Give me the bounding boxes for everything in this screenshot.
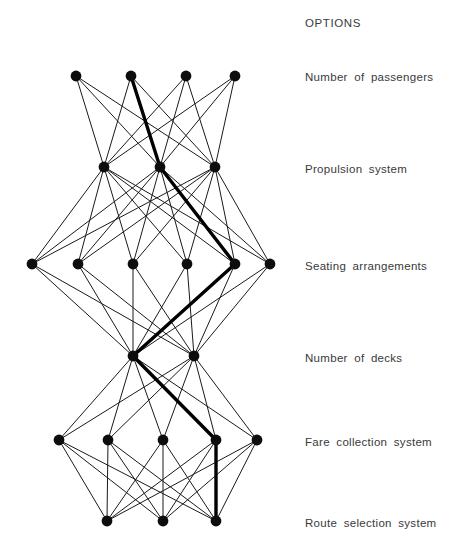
row-label-route-selection-system: Route selection system: [305, 517, 437, 529]
option-edge: [32, 167, 104, 264]
option-node[interactable]: [182, 259, 193, 270]
option-node[interactable]: [102, 516, 113, 527]
option-node[interactable]: [103, 435, 114, 446]
option-edge: [78, 167, 160, 264]
option-edge: [160, 76, 186, 167]
option-edge: [78, 264, 133, 356]
option-edge: [32, 264, 194, 356]
option-edge: [32, 264, 133, 356]
option-edge: [78, 167, 104, 264]
option-edge: [133, 264, 187, 356]
row-label-seating-arrangements: Seating arrangements: [305, 260, 427, 272]
option-edge: [133, 264, 270, 356]
options-header: OPTIONS: [305, 17, 361, 29]
option-edge: [104, 76, 235, 167]
option-node[interactable]: [189, 351, 200, 362]
option-node[interactable]: [158, 435, 169, 446]
selected-path-segment: [131, 76, 160, 167]
option-edge: [133, 356, 163, 440]
option-node-selected[interactable]: [155, 162, 166, 173]
option-edge: [107, 440, 108, 521]
option-edge: [32, 167, 160, 264]
option-node-selected[interactable]: [211, 516, 222, 527]
option-edge: [59, 440, 163, 521]
option-node[interactable]: [265, 259, 276, 270]
option-edge: [216, 440, 257, 521]
row-label-number-of-passengers: Number of passengers: [305, 71, 433, 83]
row-label-propulsion-system: Propulsion system: [305, 163, 407, 175]
morphological-chart: OPTIONS Number of passengers Propulsion …: [0, 0, 466, 554]
option-node[interactable]: [73, 259, 84, 270]
selected-path-segment: [133, 264, 235, 356]
option-edge: [187, 264, 194, 356]
option-edge: [163, 356, 194, 440]
option-node-selected[interactable]: [230, 259, 241, 270]
option-node[interactable]: [128, 259, 139, 270]
option-node-selected[interactable]: [128, 351, 139, 362]
option-node[interactable]: [54, 435, 65, 446]
option-node[interactable]: [158, 516, 169, 527]
option-edge: [59, 356, 133, 440]
option-edge: [194, 264, 270, 356]
option-node[interactable]: [99, 162, 110, 173]
option-node[interactable]: [181, 71, 192, 82]
option-node-selected[interactable]: [211, 435, 222, 446]
option-edge: [187, 167, 215, 264]
options-label-column: OPTIONS Number of passengers Propulsion …: [305, 0, 466, 554]
option-edge: [78, 264, 194, 356]
option-node-selected[interactable]: [126, 71, 137, 82]
option-node[interactable]: [230, 71, 241, 82]
option-node[interactable]: [210, 162, 221, 173]
option-edge: [160, 76, 235, 167]
option-edge: [163, 440, 257, 521]
option-edge: [194, 264, 235, 356]
option-node[interactable]: [71, 71, 82, 82]
option-node[interactable]: [27, 259, 38, 270]
option-edge: [215, 76, 235, 167]
option-node[interactable]: [252, 435, 263, 446]
option-edge: [186, 76, 215, 167]
option-edge: [76, 76, 104, 167]
option-edge: [78, 167, 215, 264]
option-edge: [104, 76, 131, 167]
option-edge: [107, 440, 257, 521]
row-label-fare-collection-system: Fare collection system: [305, 436, 432, 448]
row-label-number-of-decks: Number of decks: [305, 352, 402, 364]
